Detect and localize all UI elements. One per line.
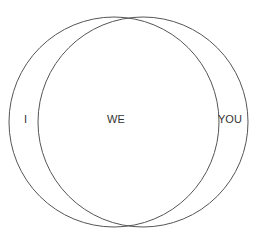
circle-you (38, 17, 248, 227)
label-we: WE (107, 114, 125, 125)
label-you: YOU (218, 114, 242, 125)
label-i: I (24, 114, 27, 125)
